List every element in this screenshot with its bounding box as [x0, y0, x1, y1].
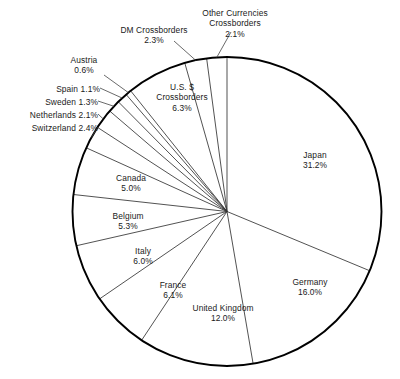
slice-label-dm-crossborders: DM Crossborders 2.3% [106, 25, 202, 46]
slice-label-netherlands-value: 2.1% [79, 110, 99, 120]
slice-label-italy: Italy 6.0% [112, 246, 174, 267]
slice-label-dm-crossborders-value: 2.3% [106, 35, 202, 45]
slice-label-austria-value: 0.6% [56, 65, 112, 75]
slice-label-belgium-value: 5.3% [94, 221, 162, 231]
slice-label-switzerland-value: 2.4% [79, 123, 99, 133]
slice-label-dm-crossborders-name: DM Crossborders [106, 25, 202, 35]
slice-label-sweden-name: Sweden [45, 97, 76, 107]
slice-label-usd-crossborders-value: 6.3% [145, 103, 219, 113]
slice-label-belgium: Belgium 5.3% [94, 211, 162, 232]
leader-line-spain [100, 88, 122, 98]
slice-label-switzerland-name: Switzerland [32, 123, 76, 133]
slice-label-france-name: France [142, 280, 204, 290]
slice-label-sweden: Sweden 1.3% [14, 97, 98, 107]
slice-label-canada: Canada 5.0% [100, 173, 162, 194]
slice-label-canada-value: 5.0% [100, 183, 162, 193]
leader-line-austria [104, 75, 128, 93]
slice-label-usd-crossborders-name-line2: Crossborders [145, 92, 219, 102]
slice-label-japan-name: Japan [283, 150, 347, 160]
slice-label-japan-value: 31.2% [283, 160, 347, 170]
leader-line-netherlands [98, 114, 103, 119]
slice-label-united-kingdom-name: United Kingdom [173, 303, 273, 313]
slice-label-other-crossborders-name-line1: Other Currencies [190, 8, 280, 18]
slice-divider-netherlands [97, 127, 227, 211]
slice-divider-germany [227, 212, 370, 271]
slice-label-switzerland: Switzerland 2.4% [4, 123, 98, 133]
slice-label-italy-name: Italy [112, 246, 174, 256]
slice-label-germany-name: Germany [268, 277, 352, 287]
slice-label-italy-value: 6.0% [112, 256, 174, 266]
slice-label-spain-value: 1.1% [81, 84, 101, 94]
slice-label-austria-name: Austria [56, 55, 112, 65]
slice-label-spain-name: Spain [56, 84, 78, 94]
slice-label-france: France 6.1% [142, 280, 204, 301]
slice-label-japan: Japan 31.2% [283, 150, 347, 171]
slice-label-spain: Spain 1.1% [24, 84, 100, 94]
slice-label-netherlands-name: Netherlands [30, 110, 76, 120]
slice-label-france-value: 6.1% [142, 290, 204, 300]
slice-label-united-kingdom-value: 12.0% [173, 313, 273, 323]
slice-label-austria: Austria 0.6% [56, 55, 112, 76]
slice-label-usd-crossborders: U.S. $ Crossborders 6.3% [145, 82, 219, 113]
slice-divider-canada [73, 195, 227, 212]
slice-label-other-crossborders-name-line2: Crossborders [190, 18, 280, 28]
slice-label-usd-crossborders-name-line1: U.S. $ [145, 82, 219, 92]
pie-chart: Japan 31.2% Germany 16.0% United Kingdom… [0, 0, 400, 379]
slice-label-netherlands: Netherlands 2.1% [4, 110, 98, 120]
slice-label-other-crossborders-value: 2.1% [190, 29, 280, 39]
slice-divider-united-kingdom [227, 212, 253, 364]
slice-label-sweden-value: 1.3% [79, 97, 99, 107]
slice-label-united-kingdom: United Kingdom 12.0% [173, 303, 273, 324]
slice-divider-sweden [110, 111, 227, 212]
slice-label-belgium-name: Belgium [94, 211, 162, 221]
slice-label-germany-value: 16.0% [268, 287, 352, 297]
slice-divider-spain [118, 102, 227, 212]
slice-label-other-crossborders: Other Currencies Crossborders 2.1% [190, 8, 280, 39]
slice-label-germany: Germany 16.0% [268, 277, 352, 298]
leader-line-sweden [98, 101, 114, 106]
slice-label-canada-name: Canada [100, 173, 162, 183]
